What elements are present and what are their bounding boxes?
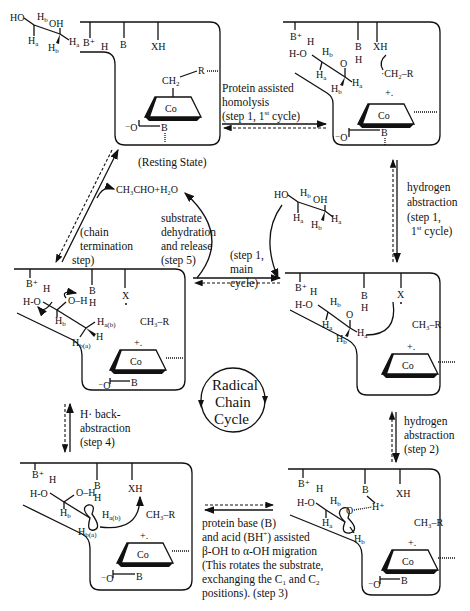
migration-label-5: (This rotates the substrate, [202, 559, 323, 572]
back-abs-label-1: H· back- [80, 408, 121, 420]
residue-bh-plus: B⁺ [26, 278, 38, 289]
carboxylate-o: ⁻O [335, 132, 348, 143]
substrate-hoh: H-O [295, 299, 313, 310]
cycle-label-3: Cycle [214, 411, 249, 427]
residue-x-radical: X [397, 289, 405, 300]
base-b: B [381, 127, 388, 138]
cobalt-label: Co [402, 556, 414, 567]
ch2-subscript: 2 [176, 80, 180, 88]
svg-text:Ha: Ha [28, 35, 39, 48]
radical-ch2r: ·CH₂–R [381, 68, 414, 79]
svg-text:Hb: Hb [311, 219, 322, 232]
residue-b: B [361, 290, 368, 301]
svg-text:Hb: Hb [330, 495, 341, 508]
product-release: CH₃CHO+H₂O substrate dehydration and rel… [97, 184, 216, 278]
arrow-homolysis: Protein assisted homolysis (step 1, 1st … [222, 82, 326, 128]
back-abs-label-2: abstraction [80, 422, 131, 434]
residue-xh: XH [151, 41, 165, 52]
svg-text:Hb: Hb [60, 507, 71, 520]
base-b: B [131, 377, 138, 388]
radical-chain-cycle: Radical Chain Cycle [198, 368, 268, 432]
substrate-o: O [340, 58, 347, 69]
free-substrate: HO OH Hb Ha Hb Ha [270, 187, 342, 278]
substrate-hoh: H-O [289, 48, 307, 59]
svg-text:exchanging the C1 and C2: exchanging the C1 and C2 [202, 573, 320, 587]
homolysis-label-4: cycle) [269, 110, 300, 123]
arrow-step1-main: (step 1, main cycle) [193, 249, 280, 290]
free-ho: HO [274, 189, 288, 200]
back-abs-label-3: (step 4) [80, 436, 115, 449]
svg-text:Hb: Hb [300, 187, 311, 200]
svg-text:Hb: Hb [48, 42, 59, 55]
residue-bh-plus: B⁺ [32, 469, 44, 480]
h-abs1-label-3: (step 1, [407, 211, 441, 224]
arrow-back-abstraction: H· back- abstraction (step 4) [65, 404, 131, 452]
arrow-h-abstraction-2: hydrogen abstraction (step 2) [392, 412, 455, 462]
termination-label-1: (chain [80, 226, 109, 239]
residue-x-radical: X [122, 290, 130, 301]
base-b: B [401, 575, 408, 586]
h-abs1-label-2: abstraction [407, 196, 458, 208]
residue-h: H [101, 41, 108, 52]
svg-text:Hb(a): Hb(a) [72, 337, 91, 350]
substrate-hoh: H-O [297, 497, 315, 508]
substrate-ethylene-glycol: HO OH Hb Ha Hb Ha [10, 11, 80, 55]
substrate-hoh: H-O [23, 296, 41, 307]
arrow-chain-termination: (chain termination step) [56, 150, 133, 267]
migration-label-8: positions). (step 3) [202, 587, 288, 600]
svg-text:1st cycle): 1st cycle) [411, 224, 453, 238]
cobalt-label: Co [165, 103, 177, 114]
svg-text:Hb: Hb [37, 11, 48, 24]
dehydration-label-2: dehydration [161, 226, 216, 239]
charge-label: +. [407, 341, 415, 352]
residue-xh: XH [373, 41, 387, 52]
ch3r-label: CH₃–R [414, 517, 443, 528]
state-abstraction: B⁺ H B H X H-O O Hb Ha Hb Ha CH₃–R +. Co [285, 273, 456, 395]
h-abs2-label-3: (step 2) [404, 443, 439, 456]
cycle-label-1: Radical [212, 377, 258, 393]
svg-text:Ha(b): Ha(b) [97, 316, 116, 329]
cobalt-label: Co [130, 356, 142, 367]
svg-text:Ha: Ha [316, 69, 327, 82]
step1-main-label-2: main [230, 263, 253, 275]
termination-label-3: step) [72, 254, 95, 267]
termination-label-2: termination [80, 240, 133, 252]
svg-text:Hb: Hb [330, 296, 341, 309]
residue-h: H [307, 36, 314, 47]
cobalt-label: Co [378, 110, 390, 121]
cobalt-label: Co [137, 549, 149, 560]
residue-b: B [362, 484, 369, 495]
ch2-label: CH [162, 75, 176, 86]
dehydration-label-4: (step 5) [161, 254, 196, 267]
migration-label-1: protein base (B) [202, 517, 276, 530]
substrate-ho: HO [10, 12, 24, 23]
arrow-migration: protein base (B) and acid (BH+) assisted… [202, 505, 323, 600]
svg-text:Ha: Ha [293, 212, 304, 225]
state-resting: B⁺ H B XH HO OH Hb Ha Hb Ha CH2 R Co ⁻O [10, 11, 220, 169]
charge-label: +. [134, 337, 142, 348]
base-b: B [136, 571, 143, 582]
radical-chain-cycle-diagram: B⁺ H B XH HO OH Hb Ha Hb Ha CH2 R Co ⁻O [0, 0, 470, 611]
residue-bh: H [89, 297, 96, 308]
svg-text:Ha: Ha [357, 327, 368, 340]
residue-bh-plus: B⁺ [298, 478, 310, 489]
svg-text:Hb: Hb [336, 333, 347, 346]
substrate-h: H [96, 331, 103, 342]
substrate-hoh: H-O [30, 488, 48, 499]
migration-label-2: and acid (BH [202, 531, 263, 544]
dehydration-label-1: substrate [161, 212, 202, 224]
svg-text:and acid (BH+) assisted: and acid (BH+) assisted [202, 530, 310, 544]
homolysis-label-2: homolysis [222, 96, 270, 109]
residue-bh: H [361, 302, 368, 313]
residue-bh-plus: B⁺ [83, 37, 95, 48]
residue-xh: XH [396, 488, 410, 499]
h-abs1-label-5: cycle) [421, 225, 452, 238]
base-b: B [161, 122, 168, 133]
homolysis-label-3: (step 1, 1 [222, 110, 265, 123]
carboxylate-o: ⁻O [98, 380, 111, 391]
residue-xh: XH [128, 483, 142, 494]
residue-bh-plus: B⁺ [290, 31, 302, 42]
arrow-h-abstraction-1: hydrogen abstraction (step 1, 1st cycle) [393, 160, 458, 262]
migration-label-6: exchanging the C [202, 573, 283, 586]
svg-text:Ha: Ha [69, 36, 80, 49]
